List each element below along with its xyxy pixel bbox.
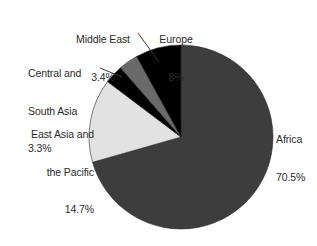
pie-label-africa: Africa 70.5% [276,108,316,208]
pie-label-africa-name: Africa [276,133,316,146]
pie-label-central-south-asia-name-line1: Central and [28,67,104,80]
pie-label-africa-value: 70.5% [276,171,316,184]
pie-chart-figure: Middle East 3.4% Europe 8% Central and S… [0,0,317,246]
pie-label-east-asia-pacific-name-line1: East Asia and [6,128,94,141]
pie-label-europe-value: 8% [150,71,202,84]
pie-label-east-asia-pacific: East Asia and the Pacific 14.7% [6,103,94,241]
pie-label-europe: Europe 8% [150,8,202,108]
pie-label-europe-name: Europe [150,33,202,46]
pie-label-east-asia-pacific-value: 14.7% [6,203,94,216]
pie-label-east-asia-pacific-name-line2: the Pacific [6,166,94,179]
